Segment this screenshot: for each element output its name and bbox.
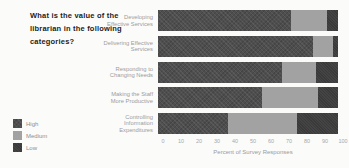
bar-segment-medium [313,36,333,57]
x-tick-label: 10 [178,138,184,144]
bar-row: Responding to Changing Needs [0,62,349,83]
bar-track [158,87,338,108]
bar-segment-high [158,113,228,134]
bar-segment-low [333,36,338,57]
x-tick-label: 30 [214,138,220,144]
legend-label: High [26,121,38,127]
bar-row: Developing Effective Services [0,10,349,31]
legend-item: High [13,119,47,128]
bar-segment-medium [291,10,327,31]
bar-segment-low [297,113,338,134]
bar-segment-high [158,62,282,83]
bar-segment-medium [282,62,316,83]
legend-label: Medium [26,133,47,139]
bar-segment-high [158,10,291,31]
bar-track [158,10,338,31]
x-tick-label: 90 [322,138,328,144]
x-tick-label: 20 [196,138,202,144]
bar-row: Controlling Information Expenditures [0,113,349,134]
x-tick-label: 50 [250,138,256,144]
bar-segment-medium [262,87,318,108]
legend-swatch-medium [13,131,22,140]
legend-swatch-low [13,143,22,152]
x-tick-label: 80 [304,138,310,144]
legend-label: Low [26,145,37,151]
bar-segment-low [316,62,338,83]
chart-figure: What is the value of the librarian in th… [0,0,349,168]
bar-rows: Developing Effective ServicesDelivering … [0,10,349,139]
category-label: Developing Effective Services [0,14,158,27]
legend: HighMediumLow [13,119,47,155]
x-tick-label: 100 [338,138,347,144]
x-tick-label: 0 [161,138,164,144]
bar-segment-low [327,10,338,31]
bar-track [158,62,338,83]
bar-segment-low [318,87,338,108]
bar-track [158,113,338,134]
bar-row: Delivering Effective Services [0,36,349,57]
x-tick-label: 70 [286,138,292,144]
bar-track [158,36,338,57]
category-label: Delivering Effective Services [0,40,158,53]
legend-item: Medium [13,131,47,140]
x-axis-label: Percent of Survey Responses [163,149,343,155]
bar-segment-medium [228,113,296,134]
x-tick-label: 60 [268,138,274,144]
bar-segment-high [158,87,262,108]
legend-item: Low [13,143,47,152]
legend-swatch-high [13,119,22,128]
x-axis-ticks: 0102030405060708090100 [163,138,343,146]
bar-segment-high [158,36,313,57]
bar-row: Making the Staff More Productive [0,87,349,108]
x-tick-label: 40 [232,138,238,144]
category-label: Making the Staff More Productive [0,91,158,104]
category-label: Responding to Changing Needs [0,66,158,79]
